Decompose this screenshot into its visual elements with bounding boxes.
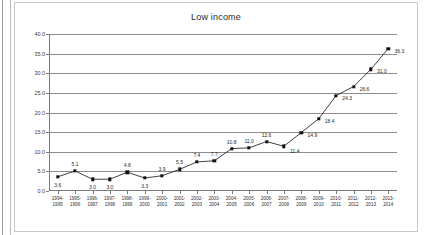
data-point-label: 3.6 bbox=[54, 182, 61, 188]
page-inner-border bbox=[10, 0, 11, 235]
x-axis-tick-label: 2010-2011 bbox=[330, 196, 342, 208]
x-axis-tick-label: 2007-2008 bbox=[278, 196, 290, 208]
y-axis-tick-label: 30.0 bbox=[35, 70, 46, 76]
data-point-label: 5.1 bbox=[72, 161, 79, 167]
x-axis-tick-mark bbox=[162, 191, 163, 194]
data-point-label: 11.0 bbox=[244, 138, 253, 144]
data-point-label: 36.3 bbox=[394, 48, 404, 54]
data-point-marker bbox=[334, 94, 337, 97]
data-point-label: 7.7 bbox=[211, 151, 218, 157]
data-point-label: 14.9 bbox=[307, 132, 317, 138]
x-axis-tick-label: 2004-2005 bbox=[226, 196, 238, 208]
x-axis-tick-mark bbox=[110, 191, 111, 194]
data-point-marker bbox=[387, 47, 390, 50]
data-point-marker bbox=[213, 159, 216, 162]
chart-title: Low income bbox=[15, 12, 417, 22]
page-left-border bbox=[2, 0, 3, 235]
x-axis-tick-label: 2012-2013 bbox=[365, 196, 377, 208]
data-point-label: 7.4 bbox=[193, 152, 200, 158]
x-axis-tick-mark bbox=[354, 191, 355, 194]
x-axis-tick-mark bbox=[75, 191, 76, 194]
x-axis-tick-mark bbox=[284, 191, 285, 194]
x-axis-tick-mark bbox=[336, 191, 337, 194]
y-axis-tick-label: 40.0 bbox=[35, 31, 46, 37]
data-point-label: 24.3 bbox=[342, 95, 352, 101]
data-point-marker bbox=[91, 178, 94, 181]
data-point-marker bbox=[160, 174, 163, 177]
data-point-label: 3.0 bbox=[106, 184, 113, 190]
y-axis-tick-label: 15.0 bbox=[35, 129, 46, 135]
y-axis-tick-label: 0.0 bbox=[38, 188, 46, 194]
x-axis-tick-label: 2001-2002 bbox=[174, 196, 186, 208]
data-point-label: 3.9 bbox=[159, 166, 166, 172]
y-axis-tick-mark bbox=[46, 191, 49, 192]
x-axis-tick-label: 1996-1997 bbox=[87, 196, 99, 208]
x-axis-tick-label: 2006-2007 bbox=[261, 196, 273, 208]
x-axis-tick-mark bbox=[58, 191, 59, 194]
data-point-marker bbox=[317, 117, 320, 120]
data-point-label: 5.5 bbox=[176, 159, 183, 165]
data-point-marker bbox=[143, 176, 146, 179]
data-point-label: 10.8 bbox=[227, 139, 237, 145]
x-axis-tick-mark bbox=[127, 191, 128, 194]
x-axis-tick-mark bbox=[301, 191, 302, 194]
x-axis-tick-mark bbox=[214, 191, 215, 194]
y-axis-tick-label: 35.0 bbox=[35, 51, 46, 57]
data-point-marker bbox=[73, 169, 76, 172]
data-point-marker bbox=[178, 168, 181, 171]
data-point-marker bbox=[369, 68, 372, 71]
x-axis-tick-label: 2011-2012 bbox=[348, 196, 359, 208]
data-point-label: 3.3 bbox=[141, 183, 148, 189]
data-point-marker bbox=[265, 140, 268, 143]
x-axis-tick-mark bbox=[249, 191, 250, 194]
y-axis-tick-label: 20.0 bbox=[35, 110, 46, 116]
data-point-label: 26.6 bbox=[360, 86, 370, 92]
data-point-label: 11.4 bbox=[290, 148, 299, 154]
data-point-label: 12.6 bbox=[262, 132, 272, 138]
y-axis-tick-label: 5.0 bbox=[38, 168, 46, 174]
data-point-marker bbox=[230, 147, 233, 150]
x-axis-tick-mark bbox=[145, 191, 146, 194]
data-point-label: 4.8 bbox=[124, 162, 131, 168]
x-axis-tick-label: 2000-2001 bbox=[156, 196, 168, 208]
x-axis-tick-label: 2003-2004 bbox=[208, 196, 220, 208]
data-point-label: 18.4 bbox=[325, 118, 335, 124]
data-point-marker bbox=[247, 146, 250, 149]
chart-container: Low income 0.05.010.015.020.025.030.035.… bbox=[14, 2, 418, 232]
document-page: Low income 0.05.010.015.020.025.030.035.… bbox=[0, 0, 424, 235]
x-axis-tick-label: 1995-1996 bbox=[69, 196, 81, 208]
plot-area: 0.05.010.015.020.025.030.035.040.0 1994-… bbox=[49, 34, 397, 191]
x-axis-tick-mark bbox=[232, 191, 233, 194]
data-point-marker bbox=[108, 178, 111, 181]
x-axis-tick-label: 1999-2000 bbox=[139, 196, 151, 208]
data-point-marker bbox=[56, 175, 59, 178]
x-axis-tick-mark bbox=[388, 191, 389, 194]
data-point-label: 31.0 bbox=[377, 68, 387, 74]
x-axis-tick-label: 2002-2003 bbox=[191, 196, 203, 208]
data-point-marker bbox=[195, 160, 198, 163]
data-point-marker bbox=[300, 131, 303, 134]
x-axis-tick-mark bbox=[371, 191, 372, 194]
x-axis-tick-mark bbox=[319, 191, 320, 194]
x-axis-tick-mark bbox=[180, 191, 181, 194]
x-axis-tick-label: 2009-2010 bbox=[313, 196, 325, 208]
y-axis-tick-label: 10.0 bbox=[35, 149, 46, 155]
x-axis-tick-label: 2013-2014 bbox=[382, 196, 394, 208]
x-axis-tick-mark bbox=[197, 191, 198, 194]
series-line bbox=[49, 34, 397, 191]
data-point-label: 3.0 bbox=[89, 184, 96, 190]
x-axis-tick-mark bbox=[93, 191, 94, 194]
x-axis-tick-label: 1997-1998 bbox=[104, 196, 116, 208]
x-axis-tick-label: 2005-2006 bbox=[243, 196, 255, 208]
data-point-marker bbox=[352, 85, 355, 88]
data-point-marker bbox=[126, 170, 129, 173]
data-point-marker bbox=[282, 145, 285, 148]
y-axis-tick-label: 25.0 bbox=[35, 90, 46, 96]
x-axis-tick-label: 1998-1999 bbox=[121, 196, 133, 208]
x-axis-tick-label: 1994-1995 bbox=[52, 196, 64, 208]
x-axis-tick-label: 2008-2009 bbox=[295, 196, 307, 208]
x-axis-tick-mark bbox=[267, 191, 268, 194]
